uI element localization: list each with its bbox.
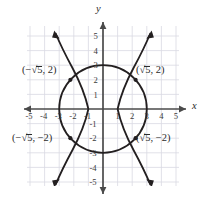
x-tick-5: 5	[174, 112, 178, 121]
radical-vinculum	[36, 66, 42, 67]
radical-group: √5	[140, 133, 151, 144]
coordinate-plane	[0, 0, 207, 207]
x-tick-neg3: -3	[55, 112, 62, 121]
y-tick-1: 1	[94, 91, 98, 100]
point-label-upper-left: (−√5, 2)	[22, 65, 56, 76]
y-tick-4: 4	[94, 47, 98, 56]
x-tick-2: 2	[130, 112, 134, 121]
y-tick-5: 5	[94, 32, 98, 41]
y-tick-neg5: -5	[90, 178, 97, 187]
x-tick-neg5: -5	[26, 112, 33, 121]
radical-group: √5	[31, 65, 42, 76]
x-tick-neg4: -4	[40, 112, 47, 121]
radical-vinculum	[26, 134, 32, 135]
y-tick-neg1: -1	[90, 120, 97, 129]
label-rest: , −2)	[32, 132, 52, 143]
radical-group: √5	[21, 133, 32, 144]
x-tick-3: 3	[145, 112, 149, 121]
y-tick-neg4: -4	[90, 164, 97, 173]
radical-group: √5	[140, 65, 151, 76]
y-tick-2: 2	[94, 76, 98, 85]
y-tick-neg3: -3	[90, 149, 97, 158]
radical-vinculum	[144, 66, 150, 67]
label-rest: , 2)	[42, 64, 56, 75]
point-label-upper-right: (√5, 2)	[136, 65, 165, 76]
point-label-lower-right: (√5, −2)	[136, 133, 170, 144]
label-rest: , 2)	[151, 64, 165, 75]
x-axis-label: x	[192, 101, 197, 112]
point-label-lower-left: (−√5, −2)	[12, 133, 52, 144]
x-tick-4: 4	[159, 112, 163, 121]
x-tick-neg2: -2	[69, 112, 76, 121]
y-tick-neg2: -2	[90, 134, 97, 143]
y-tick-3: 3	[94, 61, 98, 70]
x-tick-1: 1	[115, 112, 119, 121]
label-rest: , −2)	[151, 132, 171, 143]
y-axis	[100, 22, 107, 194]
radical-vinculum	[144, 134, 150, 135]
y-axis-label: y	[96, 4, 101, 15]
graph-figure: x y -5 -4 -3 -2 -1 1 2 3 4 5 5 4 3 2 1 -…	[0, 0, 207, 207]
